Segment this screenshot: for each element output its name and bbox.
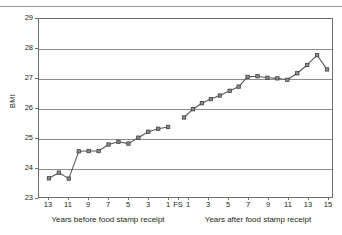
after-series-marker — [286, 78, 289, 81]
x-tick-mark — [128, 197, 129, 200]
chart-figure: BMI 23242526272829 131197531FS1357911131… — [0, 0, 342, 235]
after-series-marker — [191, 108, 194, 111]
x-tick-label: 7 — [246, 201, 250, 209]
x-tick-label: 7 — [106, 201, 110, 209]
x-tick-label: 5 — [126, 201, 130, 209]
y-tick-mark — [35, 18, 38, 19]
x-tick-label: 3 — [206, 201, 210, 209]
x-tick-label: 13 — [304, 201, 312, 209]
top-divider-rule — [0, 6, 342, 7]
after-series-marker — [305, 63, 308, 66]
y-tick-label: 26 — [25, 104, 33, 112]
after-series-marker — [296, 72, 299, 75]
x-tick-label: 11 — [64, 201, 72, 209]
x-tick-mark — [208, 197, 209, 200]
before-series-marker — [127, 142, 130, 145]
before-series-marker — [67, 177, 70, 180]
after-series-marker — [256, 75, 259, 78]
after-series-marker — [276, 77, 279, 80]
after-series-marker — [246, 75, 249, 78]
after-series-marker — [228, 89, 231, 92]
y-tick-mark — [35, 108, 38, 109]
x-axis-caption-left: Years before food stamp receipt — [51, 216, 164, 224]
x-tick-label: FS — [173, 201, 183, 209]
x-axis-caption-right: Years after food stamp receipt — [205, 216, 311, 224]
y-tick-label: 24 — [25, 164, 33, 172]
before-series-marker — [166, 125, 169, 128]
y-tick-mark — [35, 168, 38, 169]
x-tick-mark — [88, 197, 89, 200]
before-series-marker — [117, 140, 120, 143]
before-series-marker — [147, 130, 150, 133]
before-series-marker — [107, 143, 110, 146]
x-axis-tick-labels: 131197531FS13579111315 — [38, 201, 333, 213]
before-series-marker — [97, 149, 100, 152]
y-tick-label: 28 — [25, 44, 33, 52]
y-tick-label: 25 — [25, 134, 33, 142]
y-tick-mark — [35, 48, 38, 49]
x-tick-label: 3 — [146, 201, 150, 209]
after-series-marker — [182, 116, 185, 119]
after-series-marker — [209, 97, 212, 100]
x-tick-mark — [288, 197, 289, 200]
after-series-marker — [200, 102, 203, 105]
series-layer — [39, 19, 332, 197]
before-series-marker — [57, 171, 60, 174]
before-series-marker — [47, 177, 50, 180]
before-series-marker — [77, 150, 80, 153]
x-tick-label: 1 — [166, 201, 170, 209]
plot-area — [38, 18, 333, 198]
y-tick-mark — [35, 78, 38, 79]
x-tick-mark — [328, 197, 329, 200]
x-tick-mark — [108, 197, 109, 200]
before-series-marker — [156, 127, 159, 130]
before-series-marker — [137, 136, 140, 139]
x-tick-mark — [168, 197, 169, 200]
x-tick-mark — [248, 197, 249, 200]
x-tick-label: 9 — [86, 201, 90, 209]
y-tick-mark — [35, 198, 38, 199]
x-tick-mark — [308, 197, 309, 200]
after-series-marker — [237, 85, 240, 88]
x-tick-mark — [178, 197, 179, 200]
x-tick-label: 15 — [324, 201, 332, 209]
after-series-marker — [315, 54, 318, 57]
after-series-marker — [218, 94, 221, 97]
x-tick-label: 1 — [186, 201, 190, 209]
x-tick-label: 5 — [226, 201, 230, 209]
y-tick-label: 29 — [25, 14, 33, 22]
x-tick-mark — [228, 197, 229, 200]
y-tick-label: 27 — [25, 74, 33, 82]
x-tick-mark — [68, 197, 69, 200]
y-tick-label: 23 — [25, 194, 33, 202]
x-tick-label: 11 — [284, 201, 292, 209]
x-tick-mark — [48, 197, 49, 200]
before-series-marker — [87, 149, 90, 152]
x-tick-mark — [148, 197, 149, 200]
x-tick-label: 13 — [44, 201, 52, 209]
after-series-marker — [325, 68, 328, 71]
y-tick-mark — [35, 138, 38, 139]
y-axis-title: BMI — [9, 94, 17, 108]
x-tick-mark — [188, 197, 189, 200]
x-tick-mark — [268, 197, 269, 200]
before-series-line — [49, 127, 168, 179]
x-tick-label: 9 — [266, 201, 270, 209]
after-series-marker — [266, 76, 269, 79]
